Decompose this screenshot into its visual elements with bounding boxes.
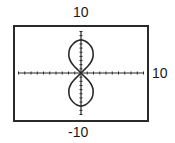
graph-window xyxy=(0,0,175,143)
